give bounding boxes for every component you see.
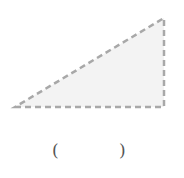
triangle-polygon xyxy=(15,18,164,107)
open-paren: ( xyxy=(52,138,59,162)
right-triangle-shape xyxy=(0,0,184,120)
answer-blank: ( ) xyxy=(0,138,184,162)
answer-input-area[interactable] xyxy=(64,140,116,160)
triangle-figure xyxy=(0,0,184,120)
close-paren: ) xyxy=(119,138,126,162)
